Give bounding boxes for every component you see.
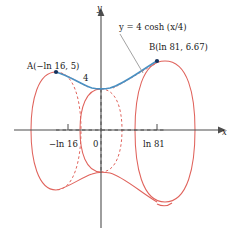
function-label-leader-line <box>120 34 143 73</box>
y-axis-label: y <box>97 4 102 13</box>
lower-profile-curve-right <box>157 203 172 206</box>
point-a-label: A(−ln 16, 5) <box>27 62 79 71</box>
point-b-marker <box>155 59 159 63</box>
x-axis-label: x <box>222 128 227 137</box>
origin-label: 0 <box>93 140 98 149</box>
point-b-label: B(ln 81, 6.67) <box>149 43 208 52</box>
y-axis-tick-label-4: 4 <box>83 74 88 83</box>
lower-profile-curve <box>56 172 157 202</box>
left-ellipse-back <box>56 72 81 190</box>
function-label: y = 4 cosh (x/4) <box>119 23 187 32</box>
left-ellipse-front <box>31 72 56 190</box>
surface-of-revolution <box>31 61 195 206</box>
x-axis-tick-label-neg-ln16: −ln 16 <box>49 140 78 149</box>
x-axis-tick-label-ln81: ln 81 <box>143 140 165 149</box>
catenary-revolution-figure <box>0 0 236 235</box>
right-ellipse-front <box>135 61 165 202</box>
right-ellipse-back <box>165 61 195 202</box>
